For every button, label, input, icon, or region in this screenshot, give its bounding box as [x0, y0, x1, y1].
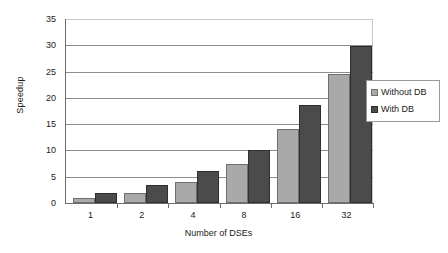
y-axis-title: Speedup	[15, 55, 25, 135]
legend-entry: With DB	[371, 102, 436, 116]
x-tick-label: 1	[65, 210, 116, 221]
bar-without-db	[124, 193, 146, 204]
legend-label: With DB	[381, 104, 414, 114]
y-tick-label: 15	[32, 120, 56, 129]
x-tick-mark	[117, 203, 118, 208]
bar-group	[168, 19, 219, 203]
y-tick-label: 30	[32, 41, 56, 50]
y-tick-label: 5	[32, 172, 56, 181]
y-tick-label: 25	[32, 67, 56, 76]
x-tick-mark	[168, 203, 169, 208]
x-tick-label: 4	[167, 210, 218, 221]
y-axis-tick-labels: 05101520253035	[32, 19, 56, 203]
x-tick-label: 32	[321, 210, 372, 221]
legend-label: Without DB	[381, 87, 427, 97]
bar-with-db	[248, 150, 270, 203]
legend-swatch-icon	[371, 106, 378, 113]
x-tick-label: 2	[116, 210, 167, 221]
bar-without-db	[175, 182, 197, 203]
bar-with-db	[350, 46, 372, 203]
bar-with-db	[95, 193, 117, 203]
x-axis-title: Number of DSEs	[65, 228, 372, 238]
plot-area	[65, 19, 373, 204]
x-tick-label: 8	[219, 210, 270, 221]
bar-group	[271, 19, 322, 203]
x-tick-mark	[271, 203, 272, 208]
x-tick-mark	[322, 203, 323, 208]
x-axis-tick-labels: 12481632	[65, 210, 372, 222]
bar-without-db	[277, 129, 299, 203]
bar-with-db	[197, 171, 219, 203]
bar-with-db	[299, 105, 321, 203]
bar-group	[117, 19, 168, 203]
x-tick-label: 16	[270, 210, 321, 221]
y-tick-label: 10	[32, 146, 56, 155]
bar-without-db	[73, 198, 95, 203]
legend-entry: Without DB	[371, 85, 436, 99]
legend-swatch-icon	[371, 89, 378, 96]
bar-without-db	[328, 74, 350, 203]
y-tick-label: 20	[32, 93, 56, 102]
bar-without-db	[226, 164, 248, 203]
bars-layer	[66, 19, 373, 203]
x-tick-mark	[220, 203, 221, 208]
x-tick-mark	[373, 203, 374, 208]
bar-chart: Speedup 05101520253035 12481632 Number o…	[0, 0, 448, 253]
bar-group	[220, 19, 271, 203]
bar-with-db	[146, 185, 168, 203]
y-tick-label: 0	[32, 199, 56, 208]
chart-legend: Without DBWith DB	[366, 80, 440, 122]
bar-group	[66, 19, 117, 203]
y-tick-label: 35	[32, 15, 56, 24]
